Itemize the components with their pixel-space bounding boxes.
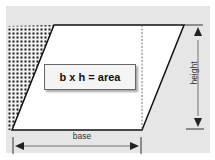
height-label: height [189,53,199,93]
base-label: base [62,131,102,141]
formula-label: b x h = area [44,64,136,90]
